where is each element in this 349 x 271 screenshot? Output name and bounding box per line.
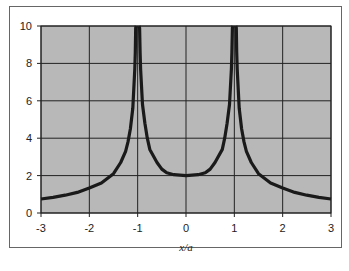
- y-tick-label: 0: [26, 207, 32, 219]
- x-axis-label: x/a: [178, 241, 193, 253]
- x-tick-label: 0: [183, 222, 189, 234]
- y-tick-label: 8: [26, 57, 32, 69]
- x-tick-label: -1: [133, 222, 143, 234]
- x-tick-label: -3: [36, 222, 46, 234]
- x-tick-label: 3: [328, 222, 334, 234]
- x-tick-label: 1: [231, 222, 237, 234]
- y-tick-label: 6: [26, 95, 32, 107]
- x-tick-label: -2: [84, 222, 94, 234]
- line-chart: 0246810 -3-2-10123 x/a: [0, 0, 349, 271]
- x-axis-ticks: -3-2-10123: [36, 222, 334, 234]
- y-axis-ticks: 0246810: [20, 20, 32, 219]
- y-tick-label: 4: [26, 132, 32, 144]
- x-tick-label: 2: [280, 222, 286, 234]
- y-tick-label: 10: [20, 20, 32, 32]
- y-tick-label: 2: [26, 170, 32, 182]
